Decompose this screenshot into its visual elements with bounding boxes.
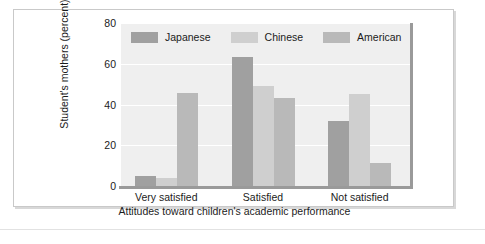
bar [253, 86, 274, 186]
x-axis-line [119, 186, 413, 189]
y-axis-tick-label: 20 [92, 139, 116, 151]
legend-item-chinese: Chinese [231, 31, 304, 43]
plot-area: JapaneseChineseAmerican [121, 23, 411, 186]
bar [370, 163, 391, 186]
bar [135, 176, 156, 186]
legend-item-japanese: Japanese [131, 31, 211, 43]
x-axis-title: Attitudes toward children's academic per… [14, 205, 455, 217]
x-axis-tick-label: Very satisfied [135, 191, 197, 203]
chart-legend: JapaneseChineseAmerican [131, 29, 403, 45]
legend-label: Japanese [165, 31, 211, 43]
bar [156, 178, 177, 186]
legend-label: American [357, 31, 401, 43]
x-axis-ticks: Very satisfiedSatisfiedNot satisfied [121, 191, 411, 205]
bar [177, 93, 198, 186]
y-axis-tick-label: 60 [92, 58, 116, 70]
y-axis-tick-label: 0 [92, 180, 116, 192]
plot-right-edge [410, 23, 413, 189]
y-axis-title: Student's mothers (percent) [58, 0, 70, 144]
bar [328, 121, 349, 186]
y-axis-tick-label: 80 [92, 17, 116, 29]
chart-figure: Student's mothers (percent) 020406080 Ja… [13, 9, 454, 207]
legend-swatch-icon [323, 32, 350, 43]
gridline [121, 23, 411, 24]
legend-label: Chinese [265, 31, 304, 43]
x-axis-tick-label: Not satisfied [331, 191, 389, 203]
gridline [121, 64, 411, 65]
bar [349, 94, 370, 186]
legend-swatch-icon [231, 32, 258, 43]
legend-swatch-icon [131, 32, 158, 43]
page-divider [0, 229, 485, 230]
y-axis-tick-label: 40 [92, 99, 116, 111]
x-axis-tick-label: Satisfied [243, 191, 283, 203]
legend-item-american: American [323, 31, 401, 43]
y-axis-ticks: 020406080 [88, 23, 116, 186]
bar [232, 57, 253, 186]
bar [274, 98, 295, 186]
